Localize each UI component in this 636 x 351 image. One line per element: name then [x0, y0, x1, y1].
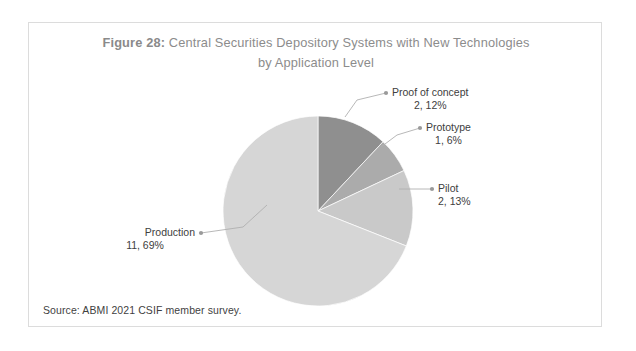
leader-dot-production [199, 231, 203, 235]
pie-label-name-proof-of-concept: Proof of concept [392, 86, 468, 99]
leader-dot-pilot [430, 187, 434, 191]
pie-label-value-prototype: 1, 6% [426, 134, 471, 147]
pie-label-value-pilot: 2, 13% [438, 195, 471, 208]
leader-line-prototype [381, 128, 420, 147]
pie-label-name-production: Production [95, 226, 195, 239]
pie-label-pilot: Pilot 2, 13% [438, 182, 471, 208]
pie-chart-plot-area: Proof of concept 2, 12% Prototype 1, 6% … [29, 23, 603, 328]
leader-line-proof-of-concept [345, 93, 386, 117]
pie-label-name-prototype: Prototype [426, 121, 471, 134]
pie-label-production: Production 11, 69% [95, 226, 195, 252]
pie-label-value-proof-of-concept: 2, 12% [392, 99, 468, 112]
source-note: Source: ABMI 2021 CSIF member survey. [43, 304, 241, 316]
pie-label-prototype: Prototype 1, 6% [426, 121, 471, 147]
leader-dot-proof-of-concept [384, 91, 388, 95]
figure-frame: Figure 28: Central Securities Depository… [28, 22, 602, 327]
pie-label-name-pilot: Pilot [438, 182, 471, 195]
leader-dot-prototype [418, 126, 422, 130]
pie-label-proof-of-concept: Proof of concept 2, 12% [392, 86, 468, 112]
pie-chart-svg [29, 23, 603, 328]
pie-label-value-production: 11, 69% [95, 239, 195, 252]
